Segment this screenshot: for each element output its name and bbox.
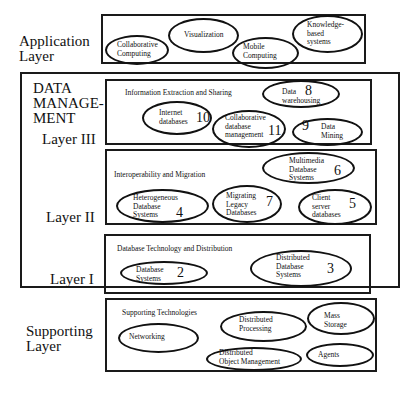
l3-item-internet-databases: Internet databases: [159, 109, 188, 126]
l2-item-client-server-databases: Client server databases: [312, 194, 341, 220]
support-item-distributed-processing: Distributed Processing: [239, 316, 273, 333]
l2-item-migrating-legacy-databases: Migrating Legacy Databases: [226, 192, 256, 218]
l3-number-10: 10: [196, 111, 210, 125]
l1-number-2: 2: [177, 266, 184, 280]
l2-number-7: 7: [266, 195, 273, 209]
l2-item-multimedia-database-systems: Multimedia Database Systems: [289, 157, 324, 183]
ellipse-agents: [306, 343, 374, 367]
l3-item-data-warehousing: Data warehousing: [282, 88, 320, 105]
label-line: Layer: [26, 339, 93, 354]
support-item-distributed-object-management: Distributed Object Management: [219, 349, 280, 366]
l2-item-heterogeneous-database-systems: Heterogeneous Database Systems: [133, 194, 178, 220]
layer-3-title: Information Extraction and Sharing: [125, 88, 232, 97]
support-item-agents: Agents: [318, 351, 339, 360]
ellipse-database-systems: [120, 261, 208, 285]
layer-3-label: Layer III: [42, 132, 96, 147]
app-item-collaborative-computing: Collaborative Computing: [117, 41, 158, 58]
label-line: Supporting: [26, 324, 93, 339]
l3-number-9: 9: [302, 119, 309, 133]
l2-number-4: 4: [176, 206, 183, 220]
support-item-mass-storage: Mass Storage: [324, 312, 347, 329]
label-line: MENT: [33, 111, 104, 126]
app-item-knowledge-based-systems: Knowledge- based systems: [307, 21, 344, 47]
supporting-layer-label: Supporting Layer: [26, 324, 93, 354]
l1-item-distributed-database-systems: Distributed Database Systems: [276, 254, 310, 280]
layer-2-title: Interoperability and Migration: [114, 170, 205, 179]
l1-number-3: 3: [327, 262, 334, 276]
l2-number-5: 5: [349, 197, 356, 211]
layer-1-title: Database Technology and Distribution: [117, 244, 232, 253]
label-line: DATA: [33, 81, 104, 96]
app-item-mobile-computing: Mobile Computing: [243, 43, 277, 60]
layer-1-label: Layer I: [50, 272, 94, 287]
layer-2-label: Layer II: [46, 210, 95, 225]
l3-item-collaborative-db-management: Collaborative database management: [225, 114, 266, 140]
app-item-visualization: Visualization: [184, 31, 224, 40]
data-management-label: DATA MANAGE- MENT: [33, 81, 104, 126]
l3-number-11: 11: [268, 124, 281, 138]
application-layer-label: Application Layer: [19, 34, 90, 64]
l1-item-database-systems: Database Systems: [136, 266, 163, 283]
l3-number-8: 8: [305, 84, 312, 98]
label-line: Application: [19, 34, 90, 49]
support-item-networking: Networking: [129, 333, 165, 342]
l3-item-data-mining: Data Mining: [321, 123, 343, 140]
l2-number-6: 6: [334, 164, 341, 178]
label-line: MANAGE-: [33, 96, 104, 111]
label-line: Layer: [19, 49, 90, 64]
supporting-title: Supporting Technologies: [122, 308, 197, 317]
